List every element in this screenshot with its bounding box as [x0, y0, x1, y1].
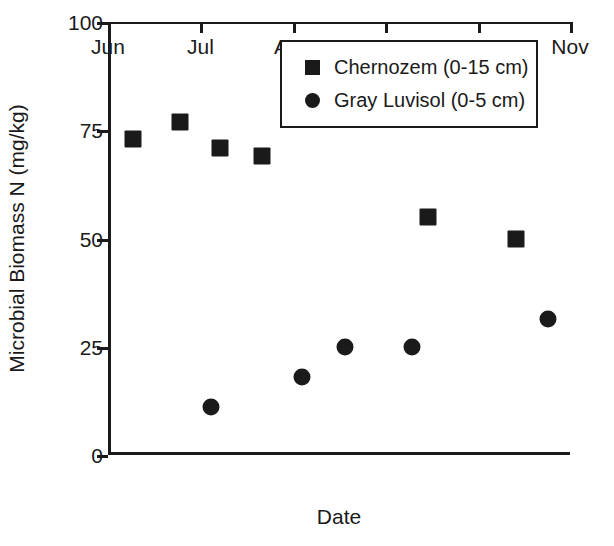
data-point-marker: [294, 369, 311, 386]
legend-circle-marker-icon: [294, 93, 330, 108]
y-tick-label: 50: [80, 228, 103, 249]
data-point-marker: [211, 139, 228, 156]
y-tick-label: 100: [68, 12, 103, 33]
chart-legend: Chernozem (0-15 cm)Gray Luvisol (0-5 cm): [280, 40, 538, 128]
y-tick-label: 0: [91, 445, 103, 466]
x-tick-mark: [108, 22, 111, 33]
x-axis-title: Date: [108, 505, 570, 529]
x-tick-label: Jul: [187, 36, 214, 57]
x-tick-mark: [293, 22, 296, 33]
x-tick-label: Nov: [551, 36, 588, 57]
legend-entry: Chernozem (0-15 cm): [294, 51, 524, 84]
y-tick-label: 75: [80, 120, 103, 141]
legend-entry-label: Gray Luvisol (0-5 cm): [330, 89, 525, 112]
data-point-marker: [539, 310, 556, 327]
x-tick-mark: [570, 22, 573, 33]
data-point-marker: [172, 113, 189, 130]
legend-entry-label: Chernozem (0-15 cm): [330, 56, 529, 79]
x-tick-mark: [200, 22, 203, 33]
data-point-marker: [403, 338, 420, 355]
data-point-marker: [337, 338, 354, 355]
x-tick-label: Jun: [91, 36, 125, 57]
data-point-marker: [124, 130, 141, 147]
legend-square-marker-icon: [294, 60, 330, 75]
scatter-chart-figure: 0255075100 JunJulAugSepOctNov Microbial …: [0, 0, 614, 546]
data-point-marker: [253, 148, 270, 165]
y-axis-title: Microbial Biomass N (mg/kg): [0, 22, 34, 455]
y-tick-label: 25: [80, 336, 103, 357]
x-tick-mark: [385, 22, 388, 33]
data-point-marker: [507, 230, 524, 247]
data-point-marker: [203, 399, 220, 416]
x-tick-mark: [478, 22, 481, 33]
data-point-marker: [420, 208, 437, 225]
legend-entry: Gray Luvisol (0-5 cm): [294, 84, 524, 117]
